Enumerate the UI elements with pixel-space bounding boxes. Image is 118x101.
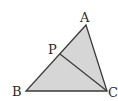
diagram-canvas: A B C P <box>0 0 118 101</box>
triangle-diagram: A B C P <box>0 0 118 101</box>
vertex-label-p: P <box>48 42 57 57</box>
vertex-label-a: A <box>79 10 90 25</box>
vertex-label-b: B <box>12 84 22 99</box>
vertex-label-c: C <box>108 85 118 100</box>
